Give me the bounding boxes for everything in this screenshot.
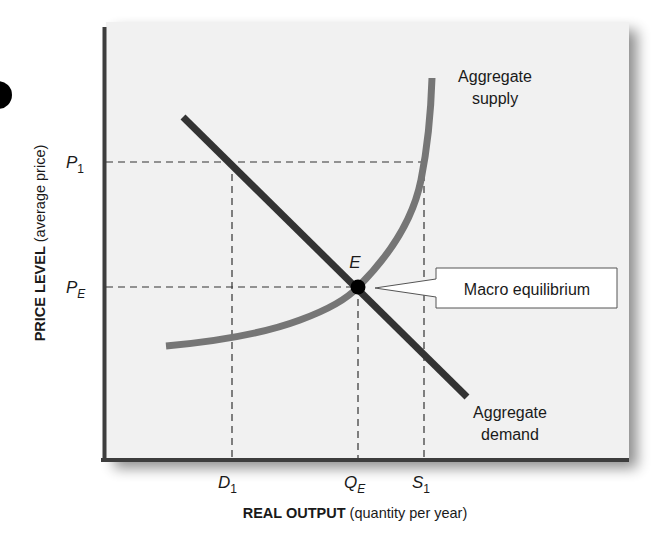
y-tick-pe: PE xyxy=(66,278,86,301)
demand-label-line2: demand xyxy=(481,426,539,443)
section-marker-icon xyxy=(0,81,12,109)
y-tick-p1: P1 xyxy=(66,153,84,176)
supply-label-line2: supply xyxy=(472,90,518,107)
equilibrium-point xyxy=(351,280,366,295)
aggregate-supply-demand-chart: Macro equilibrium E Aggregate supply Agg… xyxy=(0,0,670,550)
plot-panel xyxy=(106,22,629,460)
x-tick-d1: D1 xyxy=(218,473,237,496)
x-tick-qe: QE xyxy=(344,473,366,496)
supply-label-line1: Aggregate xyxy=(458,68,532,85)
x-axis-title: REAL OUTPUT (quantity per year) xyxy=(243,505,468,521)
x-tick-s1: S1 xyxy=(412,473,430,496)
equilibrium-label: E xyxy=(349,253,361,272)
demand-label-line1: Aggregate xyxy=(473,404,547,421)
y-axis-title: PRICE LEVEL (average price) xyxy=(32,145,48,342)
callout-label: Macro equilibrium xyxy=(464,281,590,298)
